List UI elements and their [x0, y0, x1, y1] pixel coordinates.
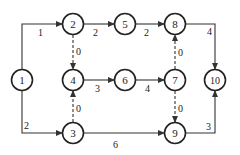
node-9: 9	[165, 123, 186, 144]
node-4: 4	[63, 70, 84, 91]
edge-8-10-weight: 4	[207, 26, 212, 37]
edge-5-8-weight: 2	[144, 27, 149, 38]
node-3: 3	[63, 123, 84, 144]
node-2: 2	[63, 14, 84, 35]
node-2-label: 2	[70, 18, 76, 30]
node-7-label: 7	[172, 74, 178, 86]
node-9-label: 9	[172, 127, 178, 139]
edge-2-4-weight: 0	[76, 46, 81, 57]
nodes: 1 2 3 4 5 6 7 8	[12, 14, 226, 144]
node-5: 5	[115, 14, 136, 35]
node-6-label: 6	[122, 74, 128, 86]
edge-3-4-weight: 0	[76, 103, 81, 114]
edge-7-8-weight: 0	[178, 47, 183, 58]
edge-6-7-weight: 4	[145, 83, 150, 94]
edge-7-9-weight: 0	[178, 103, 183, 114]
edge-1-3-weight: 2	[24, 120, 29, 131]
node-10: 10	[205, 70, 226, 91]
node-10-label: 10	[210, 75, 220, 86]
node-6: 6	[115, 70, 136, 91]
node-5-label: 5	[122, 18, 128, 30]
edge-1-2-weight: 1	[38, 27, 43, 38]
node-7: 7	[165, 70, 186, 91]
node-1-label: 1	[19, 74, 25, 86]
node-8-label: 8	[172, 18, 178, 30]
network-diagram: 1 2 2 0 0 6 3 2 4 0 0 4	[0, 0, 240, 155]
node-1: 1	[12, 70, 33, 91]
edge-4-6-weight: 3	[95, 83, 100, 94]
edge-2-5-weight: 2	[93, 27, 98, 38]
node-3-label: 3	[70, 127, 76, 139]
edge-9-10-weight: 3	[206, 121, 211, 132]
node-8: 8	[165, 14, 186, 35]
edge-3-9-weight: 6	[113, 139, 118, 150]
node-4-label: 4	[70, 74, 76, 86]
